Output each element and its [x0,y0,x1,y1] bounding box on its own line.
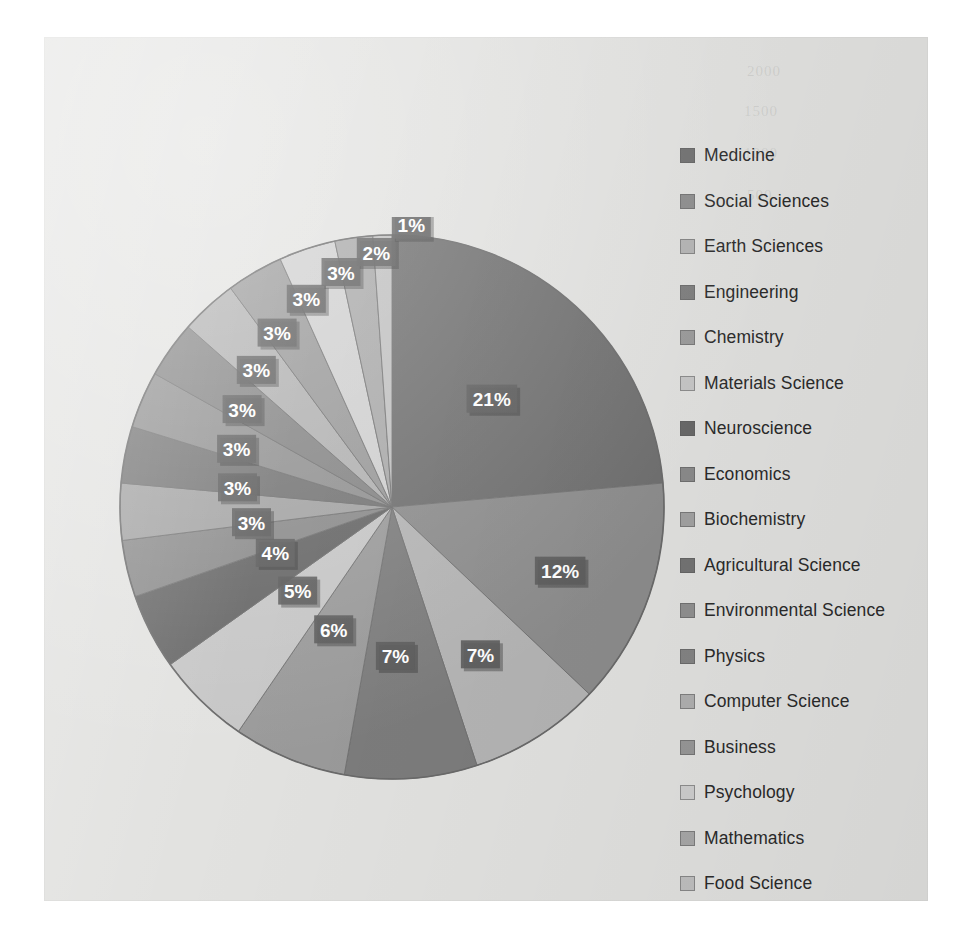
data-label: 5% [284,581,312,602]
legend-swatch-icon [680,694,695,709]
legend-item[interactable]: Neuroscience [680,406,960,452]
data-label: 3% [224,478,252,499]
legend-label: Engineering [704,282,799,303]
legend-item[interactable]: Economics [680,452,960,498]
data-label: 3% [223,439,251,460]
data-label: 6% [320,620,348,641]
legend-swatch-icon [680,239,695,254]
legend-label: Neuroscience [704,418,812,439]
legend-label: Chemistry [704,327,784,348]
legend-item[interactable]: Mathematics [680,816,960,862]
pie-svg: 21%12%7%7%6%5%4%3%3%3%3%3%3%3%3%2%1% [102,217,682,797]
ghost-mark-1: 1500 [744,103,778,120]
legend-item[interactable]: Agricultural Science [680,543,960,589]
legend-label: Social Sciences [704,191,829,212]
legend-item[interactable]: Medicine [680,133,960,179]
legend-item[interactable]: Food Science [680,861,960,907]
legend-swatch-icon [680,785,695,800]
data-label: 2% [363,243,391,264]
legend-swatch-icon [680,876,695,891]
legend-item[interactable]: Chemistry [680,315,960,361]
data-label: 21% [473,389,511,410]
chart-legend[interactable]: MedicineSocial SciencesEarth SciencesEng… [680,133,960,907]
legend-label: Physics [704,646,765,667]
legend-swatch-icon [680,649,695,664]
data-label: 3% [263,323,291,344]
legend-item[interactable]: Social Sciences [680,179,960,225]
pie-slice[interactable] [392,235,663,507]
legend-item[interactable]: Materials Science [680,361,960,407]
chart-panel: 2000 1500 1000 500 21%12%7%7%6%5%4%3%3%3… [44,37,928,901]
legend-label: Food Science [704,873,812,894]
legend-label: Computer Science [704,691,850,712]
legend-item[interactable]: Biochemistry [680,497,960,543]
legend-swatch-icon [680,558,695,573]
legend-swatch-icon [680,831,695,846]
legend-label: Medicine [704,145,775,166]
legend-swatch-icon [680,467,695,482]
legend-item[interactable]: Earth Sciences [680,224,960,270]
legend-label: Mathematics [704,828,804,849]
data-label: 12% [541,561,579,582]
ghost-mark-0: 2000 [747,63,781,80]
data-label: 7% [382,646,410,667]
data-label: 1% [398,217,426,236]
legend-label: Business [704,737,776,758]
legend-label: Environmental Science [704,600,885,621]
legend-swatch-icon [680,603,695,618]
legend-swatch-icon [680,376,695,391]
legend-item[interactable]: Psychology [680,770,960,816]
legend-item[interactable]: Physics [680,634,960,680]
legend-item[interactable]: Business [680,725,960,771]
data-label: 3% [327,263,355,284]
legend-label: Biochemistry [704,509,805,530]
data-label: 3% [228,400,256,421]
legend-label: Earth Sciences [704,236,823,257]
legend-swatch-icon [680,194,695,209]
data-label: 3% [293,289,321,310]
legend-swatch-icon [680,330,695,345]
data-label: 4% [262,543,290,564]
pie-slices[interactable] [120,235,664,779]
legend-swatch-icon [680,285,695,300]
legend-swatch-icon [680,148,695,163]
legend-swatch-icon [680,421,695,436]
legend-item[interactable]: Engineering [680,270,960,316]
pie-chart[interactable]: 21%12%7%7%6%5%4%3%3%3%3%3%3%3%3%2%1% [102,217,682,797]
legend-label: Agricultural Science [704,555,861,576]
legend-item[interactable]: Computer Science [680,679,960,725]
legend-swatch-icon [680,740,695,755]
data-label: 3% [238,513,266,534]
data-label: 7% [467,645,495,666]
scanned-page: 2000 1500 1000 500 21%12%7%7%6%5%4%3%3%3… [0,0,967,948]
legend-label: Materials Science [704,373,844,394]
legend-label: Psychology [704,782,795,803]
legend-item[interactable]: Environmental Science [680,588,960,634]
legend-swatch-icon [680,512,695,527]
data-label: 3% [243,360,271,381]
legend-label: Economics [704,464,791,485]
